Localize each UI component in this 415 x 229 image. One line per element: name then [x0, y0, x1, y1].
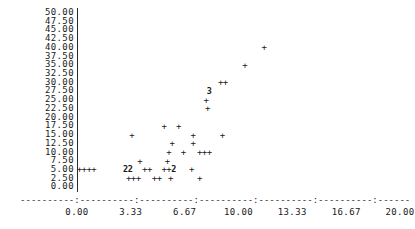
data-point-marker: + — [168, 174, 173, 183]
x-axis-tick-label: 0.00 — [65, 208, 88, 217]
data-point-marker: + — [197, 174, 202, 183]
data-point-marker: + — [161, 121, 166, 130]
data-point-marker: + — [207, 148, 212, 157]
data-point-marker: + — [191, 139, 196, 148]
x-axis-tick-label: 3.33 — [119, 208, 142, 217]
data-point-marker: + — [181, 148, 186, 157]
data-point-marker: + — [262, 43, 267, 52]
x-axis-tick-label: 20.00 — [385, 208, 414, 217]
x-axis-tick-label: 6.67 — [173, 208, 196, 217]
x-axis-line: ----------:----------:----------:-------… — [20, 196, 410, 205]
data-point-marker: + — [242, 60, 247, 69]
data-point-marker: + — [205, 104, 210, 113]
data-point-marker: + — [136, 174, 141, 183]
data-point-marker: + — [91, 165, 96, 174]
data-point-marker: + — [223, 78, 228, 87]
data-point-marker: + — [220, 130, 225, 139]
x-axis-tick-label: 10.00 — [224, 208, 253, 217]
data-point-marker: + — [189, 165, 194, 174]
data-point-marker: + — [129, 130, 134, 139]
data-point-marker: + — [157, 174, 162, 183]
y-axis-tick-label: 0.00 — [0, 182, 74, 191]
x-axis-tick-label: 16.67 — [332, 208, 361, 217]
plot-data-area: ++++3++++++++++++++++++++22++++2++++++++ — [77, 8, 406, 191]
x-axis-tick-labels: 0.003.336.6710.0013.3316.6720.00 — [0, 208, 406, 222]
x-axis-tick-label: 13.33 — [278, 208, 307, 217]
data-point-marker: + — [176, 121, 181, 130]
